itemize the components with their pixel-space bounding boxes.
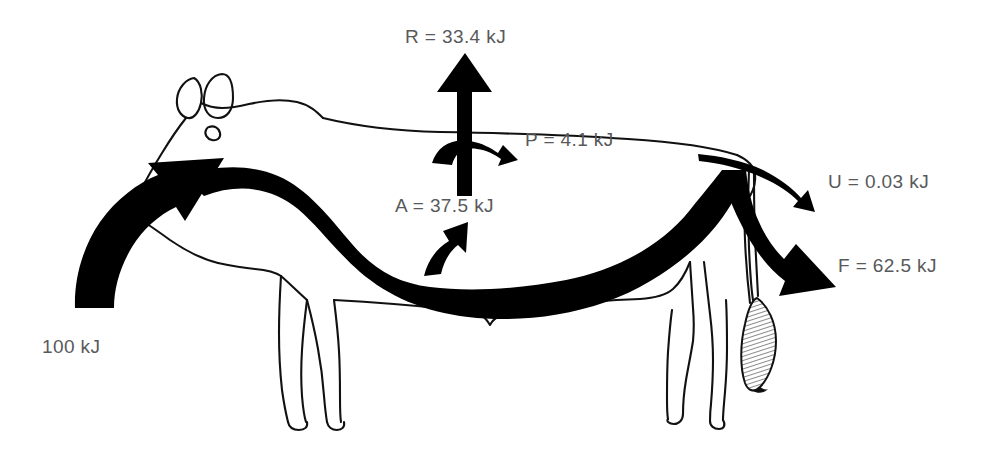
faeces-arrow [722,170,836,296]
hind-hoof-near [667,414,683,424]
hind-leg-far [704,262,713,421]
front-leg-near [279,276,288,422]
urine-label: U = 0.03 kJ [828,172,929,191]
left-ear-icon [177,78,202,118]
front-hoof-far [327,422,344,430]
hind-leg-near-front [667,310,672,419]
hind-leg-near [683,262,694,414]
faeces-label: F = 62.5 kJ [838,256,937,275]
right-ear-icon [204,74,233,118]
shoulder-line [281,276,307,300]
cow-energy-flow-drawing [0,0,984,468]
assimilation-label: A = 37.5 kJ [395,196,494,215]
front-leg-far [307,300,327,422]
respiration-arrow [437,53,492,196]
input-energy-label: 100 kJ [42,337,100,356]
front-leg-near-back [301,300,307,422]
hind-hoof-far [710,420,724,429]
input-energy-arrow [75,158,224,308]
respiration-label: R = 33.4 kJ [405,27,506,46]
head-outline [201,100,323,118]
tail-tuft [741,298,776,393]
hind-leg-far-front [723,300,727,420]
eye-icon [205,126,220,140]
production-label: P = 4.1 kJ [525,130,614,149]
energy-flow-diagram: R = 33.4 kJ P = 4.1 kJ A = 37.5 kJ U = 0… [0,0,984,468]
front-hoof-near [288,422,307,430]
front-leg-far-back [334,300,341,422]
brisket-outline [218,263,281,276]
assimilation-arrow [424,222,468,276]
production-arrow [432,140,518,166]
